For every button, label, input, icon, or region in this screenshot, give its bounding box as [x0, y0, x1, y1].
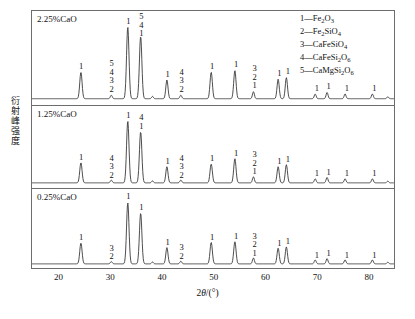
peak-label: 1	[327, 168, 331, 177]
peak-label: 1	[210, 233, 214, 242]
peak-label: 1	[166, 238, 170, 247]
peak-label: 1	[327, 249, 331, 258]
x-tick-label: 40	[157, 272, 166, 282]
x-tick-label: 30	[106, 272, 115, 282]
peak-label: 1	[126, 111, 130, 120]
peak-label: 1	[234, 149, 238, 158]
x-axis-ticks: 20304050607080	[31, 270, 395, 284]
x-axis-label-post: /(°)	[206, 288, 219, 298]
x-axis-label: 2θ/(°)	[0, 288, 415, 298]
peak-label: 32	[110, 244, 114, 261]
peak-label: 432	[110, 154, 114, 180]
peak-label: 541	[139, 12, 143, 38]
legend: 1—Fe2O32—Fe2SiO43—CaFeSiO44—CaFeSi2O65—C…	[300, 13, 354, 78]
peak-label: 5432	[110, 59, 114, 93]
x-tick-label: 20	[54, 272, 63, 282]
peak-label: 1	[126, 192, 130, 201]
peak-label: 321	[253, 64, 257, 90]
xrd-figure: 衍射峰强度 2.25%CaO 154321541143211321111111 …	[0, 0, 415, 319]
peak-label: 1	[277, 239, 281, 248]
peak-label: 432	[180, 68, 184, 94]
peak-label: 1	[79, 153, 83, 162]
legend-entry: 1—Fe2O3	[300, 13, 354, 26]
peak-label: 1	[79, 62, 83, 71]
panel-0-25-cao: 0.25%CaO 1321113211321111111	[32, 188, 394, 270]
y-axis-label: 衍射峰强度	[2, 96, 20, 146]
peak-label: 1	[372, 169, 376, 178]
peak-label: 321	[253, 232, 257, 258]
x-tick-label: 70	[313, 272, 322, 282]
peak-label: 1	[372, 251, 376, 260]
spectrum-trace	[32, 106, 394, 189]
peak-label: 432	[180, 154, 184, 180]
peak-label: 1	[210, 154, 214, 163]
peak-label: 1	[327, 82, 331, 91]
peak-label: 1	[315, 169, 319, 178]
x-tick-label: 60	[261, 272, 270, 282]
peak-label: 1	[345, 84, 349, 93]
peak-label: 1	[277, 157, 281, 166]
peak-label: 1	[234, 232, 238, 241]
x-tick-label: 50	[209, 272, 218, 282]
legend-entry: 2—Fe2SiO4	[300, 26, 354, 39]
x-tick-label: 80	[365, 272, 374, 282]
peak-label: 321	[253, 150, 257, 176]
peak-label: 1	[126, 17, 130, 26]
peak-label: 1	[234, 60, 238, 69]
peak-label: 1	[315, 84, 319, 93]
spectrum-trace	[32, 189, 394, 270]
peak-label: 1	[345, 251, 349, 260]
legend-entry: 5—CaMgSi2O6	[300, 65, 354, 78]
peak-label: 1	[315, 251, 319, 260]
peak-label: 1	[372, 84, 376, 93]
peak-label: 1	[286, 155, 290, 164]
legend-entry: 4—CaFeSi2O6	[300, 52, 354, 65]
peak-label: 32	[180, 243, 184, 260]
peak-label: 1	[286, 67, 290, 76]
legend-entry: 3—CaFeSiO4	[300, 39, 354, 52]
peak-label: 41	[139, 113, 143, 130]
peak-label: 1	[79, 233, 83, 242]
peak-label: 1	[139, 203, 143, 212]
peak-label: 1	[345, 169, 349, 178]
peak-label: 1	[166, 70, 170, 79]
peak-label: 1	[286, 237, 290, 246]
peak-label: 1	[166, 157, 170, 166]
peak-label: 1	[277, 69, 281, 78]
panel-1-25-cao: 1.25%CaO 1432141143211321111111	[32, 105, 394, 189]
peak-label: 1	[210, 62, 214, 71]
